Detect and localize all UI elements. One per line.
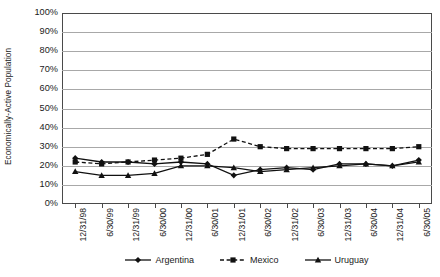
x-axis-tick-label: 6/30/99 xyxy=(106,208,115,237)
legend-swatch-uruguay xyxy=(305,255,331,265)
y-axis-tick-label: 60% xyxy=(40,85,58,94)
x-axis-tick-label: 12/31/00 xyxy=(185,208,194,241)
x-axis-tick-labels: 12/31/986/30/9912/31/996/30/0012/31/006/… xyxy=(62,208,432,252)
legend-item: Argentina xyxy=(125,255,194,265)
x-axis-tick-label: 12/31/04 xyxy=(396,208,405,241)
legend-swatch-argentina xyxy=(125,255,151,265)
data-point-marker xyxy=(390,146,395,151)
x-axis-tick-label: 6/30/05 xyxy=(423,208,432,237)
legend-label: Uruguay xyxy=(335,255,369,265)
y-axis-tick-label: 70% xyxy=(40,66,58,75)
x-axis-tick-label: 12/31/03 xyxy=(344,208,353,241)
legend-item: Mexico xyxy=(220,255,279,265)
data-point-marker xyxy=(363,146,368,151)
series-mexico xyxy=(73,136,422,166)
y-axis-tick-label: 100% xyxy=(35,8,59,17)
y-axis-title-text: Economically-Active Population xyxy=(5,47,14,164)
x-axis-tick-label: 12/31/99 xyxy=(132,208,141,241)
data-point-marker xyxy=(416,144,421,149)
legend-label: Argentina xyxy=(155,255,194,265)
data-point-marker xyxy=(152,157,157,162)
y-axis-tick-label: 40% xyxy=(40,123,58,132)
x-axis-tick-label: 6/30/03 xyxy=(317,208,326,237)
data-point-marker xyxy=(73,159,78,164)
y-axis-tick-label: 90% xyxy=(40,27,58,36)
y-axis-tick-label: 10% xyxy=(40,180,58,189)
data-point-marker xyxy=(310,146,315,151)
y-axis-title: Economically-Active Population xyxy=(0,0,18,212)
legend-item: Uruguay xyxy=(305,255,369,265)
series-layer xyxy=(62,13,432,204)
x-axis-tick-label: 6/30/01 xyxy=(211,208,220,237)
data-point-marker xyxy=(205,152,210,157)
chart-legend: ArgentinaMexicoUruguay xyxy=(62,252,432,268)
data-point-marker xyxy=(284,146,289,151)
y-axis-tick-label: 30% xyxy=(40,142,58,151)
data-point-marker xyxy=(230,257,235,262)
x-axis-tick-label: 12/31/02 xyxy=(291,208,300,241)
data-point-marker xyxy=(125,159,130,164)
y-axis-tick-label: 50% xyxy=(40,104,58,113)
data-point-marker xyxy=(99,161,104,166)
x-axis-tick-label: 12/31/98 xyxy=(79,208,88,241)
y-axis-tick-label: 80% xyxy=(40,47,58,56)
legend-label: Mexico xyxy=(250,255,279,265)
data-point-marker xyxy=(135,257,141,263)
data-point-marker xyxy=(231,136,236,141)
data-point-marker xyxy=(178,156,183,161)
legend-swatch-mexico xyxy=(220,255,246,265)
y-axis-tick-label: 20% xyxy=(40,161,58,170)
data-point-marker xyxy=(231,172,237,178)
y-axis-tick-label: 0% xyxy=(45,199,58,208)
data-point-marker xyxy=(337,146,342,151)
x-axis-tick-label: 6/30/04 xyxy=(370,208,379,237)
x-axis-tick-label: 12/31/01 xyxy=(238,208,247,241)
x-axis-tick-label: 6/30/00 xyxy=(159,208,168,237)
data-point-marker xyxy=(258,144,263,149)
chart-container: Economically-Active Population 0%10%20%3… xyxy=(0,0,440,277)
plot-area xyxy=(62,13,432,204)
x-axis-tick-label: 6/30/02 xyxy=(264,208,273,237)
y-axis-tick-labels: 0%10%20%30%40%50%60%70%80%90%100% xyxy=(18,0,62,212)
